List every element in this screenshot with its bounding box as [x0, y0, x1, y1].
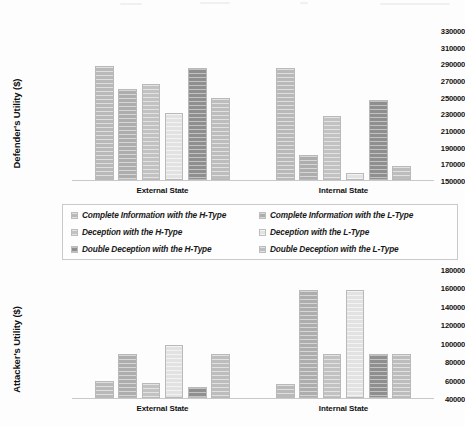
bar — [346, 290, 365, 398]
bar — [95, 66, 114, 180]
bar — [276, 384, 295, 398]
chart-attacker-utility: Attacker's Utility ($) 18000016000014000… — [0, 262, 465, 422]
x-group-label: External State — [72, 186, 253, 195]
bar — [165, 113, 184, 180]
bar — [118, 354, 137, 398]
bar — [392, 354, 411, 398]
bar — [276, 68, 295, 180]
bar — [118, 89, 137, 180]
legend-label: Deception with the L-Type — [270, 227, 369, 237]
bar — [142, 84, 161, 180]
scan-artifact — [380, 3, 450, 5]
x-group-label: Internal State — [253, 186, 434, 195]
legend-swatch-icon — [259, 212, 266, 219]
bar — [299, 290, 318, 398]
legend-label: Complete Information with the H-Type — [82, 210, 226, 220]
legend-item: Complete Information with the L-Type — [259, 210, 413, 220]
legend-item: Complete Information with the H-Type — [71, 210, 226, 220]
legend-swatch-icon — [259, 246, 266, 253]
legend-item: Double Deception with the H-Type — [71, 244, 212, 254]
legend-label: Double Deception with the H-Type — [82, 244, 212, 254]
x-group-label: Internal State — [253, 404, 434, 413]
plot-area-attacker — [72, 270, 434, 399]
bar — [369, 100, 388, 180]
bar — [323, 354, 342, 398]
figure-root: Defender's Utility ($) 33000031000029000… — [0, 0, 465, 427]
bar — [188, 68, 207, 180]
bar — [392, 166, 411, 180]
legend-swatch-icon — [71, 212, 78, 219]
bar — [211, 354, 230, 398]
bar — [165, 345, 184, 398]
legend-swatch-icon — [71, 246, 78, 253]
legend-item: Deception with the H-Type — [71, 227, 182, 237]
legend-label: Double Deception with the L-Type — [270, 244, 399, 254]
scan-artifact — [300, 2, 308, 4]
scan-artifact — [200, 2, 230, 4]
chart-legend: Complete Information with the H-TypeComp… — [62, 204, 458, 260]
legend-label: Deception with the H-Type — [82, 227, 182, 237]
legend-item: Deception with the L-Type — [259, 227, 369, 237]
y-axis-label-attacker: Attacker's Utility ($) — [11, 290, 22, 410]
scan-artifact — [120, 3, 142, 5]
bar — [369, 354, 388, 398]
bar — [346, 173, 365, 180]
chart-defender-utility: Defender's Utility ($) 33000031000029000… — [0, 22, 465, 200]
x-axis-baseline — [72, 398, 434, 399]
bar — [95, 381, 114, 398]
legend-item: Double Deception with the L-Type — [259, 244, 399, 254]
legend-swatch-icon — [259, 229, 266, 236]
bar — [142, 383, 161, 398]
x-group-label: External State — [72, 404, 253, 413]
legend-swatch-icon — [71, 229, 78, 236]
bar — [188, 387, 207, 398]
bar — [323, 116, 342, 180]
x-axis-baseline — [72, 180, 434, 181]
y-axis-label-defender: Defender's Utility ($) — [11, 64, 22, 184]
legend-label: Complete Information with the L-Type — [270, 210, 413, 220]
bar — [299, 155, 318, 180]
plot-area-defender — [72, 31, 434, 181]
bar — [211, 98, 230, 180]
